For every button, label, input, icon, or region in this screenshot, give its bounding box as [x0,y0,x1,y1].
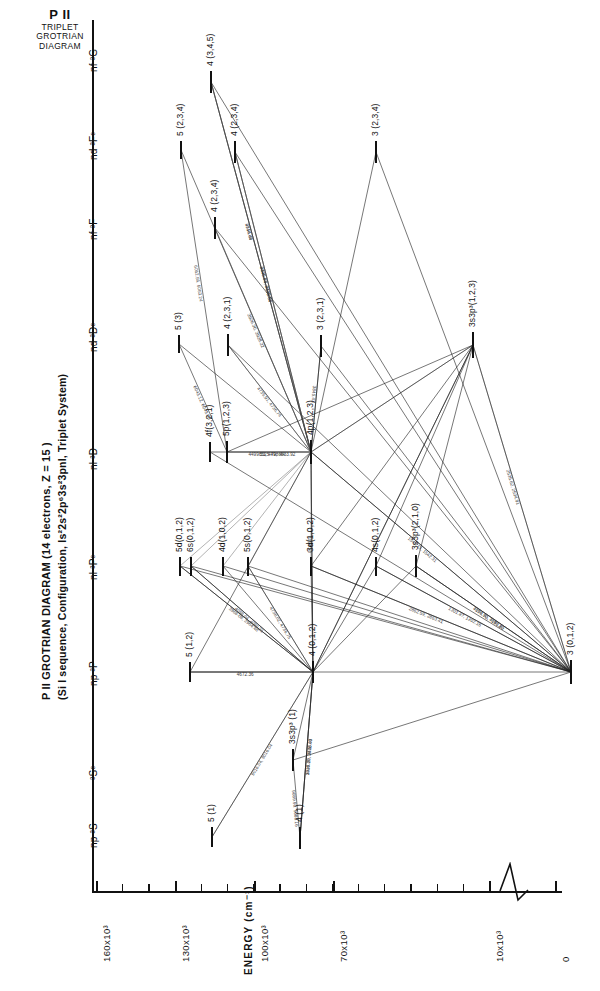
transition-line [376,152,571,672]
energy-level-L20[interactable] [189,662,191,682]
energy-level-label-L21: 4 (0,1,2) [307,623,317,656]
axis-tick-major [555,881,557,892]
energy-level-label-L14: 6s(0,1,2) [185,517,195,551]
energy-level-L21[interactable] [312,661,314,683]
axis-tick [463,884,464,892]
energy-level-label-L5: 4 (2,3,4) [209,179,219,212]
energy-level-L15[interactable] [222,557,224,576]
energy-level-label-L12: 4p(1,2,3) [305,400,315,435]
column-header-np-3P: np ³P [88,661,99,686]
energy-level-label-L11: 5p(1,2,3) [221,401,231,436]
transition-line [311,345,473,452]
axis-tick [227,884,228,892]
energy-level-L5[interactable] [214,217,216,239]
energy-level-L9[interactable] [472,332,474,358]
energy-level-label-L13: 5d(0,1,2) [174,517,184,552]
axis-tick [122,884,123,892]
energy-level-label-L9: 3s3p³(1,2,3) [467,280,477,327]
energy-level-L3[interactable] [234,141,236,163]
column-header-nd-3Fo: nd ³Fᵒ [88,132,99,160]
wavelength-label: 4672.36 [237,672,254,677]
axis-tick-major [254,881,256,892]
axis-tick-label: 130x10³ [180,925,191,962]
transition-line [223,452,311,566]
axis-tick [148,884,149,892]
transition-line [293,672,571,760]
energy-level-label-L22: 3 (0,1,2) [565,622,575,655]
axis-tick [279,884,280,892]
column-header-3So: ³Sᵒ [88,766,99,780]
energy-level-label-L3: 4 (2,3,4) [229,103,239,136]
axis-tick-label: 100x10³ [259,925,270,962]
column-header-nl-3D: nl ³D [88,448,99,470]
grotrian-diagram: P II TRIPLET GROTRIAN DIAGRAM P II GROTR… [0,0,600,991]
axis-tick-label: 0 [560,956,571,962]
energy-level-L12[interactable] [310,440,312,464]
axis-tick-label: 160x10³ [101,925,112,962]
axis-tick [201,884,202,892]
energy-level-label-L18: 4s(0,1,2) [370,517,380,551]
energy-level-L10[interactable] [209,442,211,462]
energy-level-L14[interactable] [190,557,192,576]
axis-tick [384,884,385,892]
energy-level-label-L4: 3 (2,3,4) [370,103,380,136]
energy-level-label-L7: 4 (2,3,1) [222,296,232,329]
energy-level-label-L20: 5 (1,2) [184,632,194,657]
axis-tick-major [175,881,177,892]
column-header-nf-3F: nf ³F [88,218,99,240]
energy-level-L11[interactable] [226,441,228,463]
energy-level-label-L15: 4d(1,0,2) [217,517,227,552]
energy-level-L25[interactable] [299,827,301,849]
transition-line [313,566,376,672]
axis-tick-major [489,881,491,892]
energy-level-L18[interactable] [375,557,377,576]
energy-level-L17[interactable] [310,557,312,576]
energy-level-L13[interactable] [179,557,181,576]
energy-level-label-L24: 5 (1) [206,804,216,822]
column-header-nd-3Do: nd ³Dᵒ [88,323,99,352]
axis-tick-label: 70x10³ [338,931,349,962]
energy-level-L7[interactable] [227,334,229,356]
energy-level-L6[interactable] [178,335,180,353]
axis-tick [358,884,359,892]
axis-tick-major [333,881,335,892]
energy-level-L8[interactable] [320,335,322,357]
transition-line [223,566,313,672]
transition-line [248,566,571,672]
transition-line [311,452,571,672]
energy-level-label-L8: 3 (2,3,1) [315,297,325,330]
energy-level-L16[interactable] [247,557,249,576]
wavelength-label: 6024.18 [307,536,312,553]
axis-tick [437,884,438,892]
energy-level-L22[interactable] [570,660,572,684]
axis-tick [410,884,411,892]
transition-line [313,566,416,672]
column-header-np-3S: np ³S [88,823,99,848]
energy-level-label-L1: 4 (3,4,5) [205,33,215,66]
axis-tick-label: 10x10³ [494,931,505,962]
energy-level-label-L23: 3s3p³ (1) [287,709,297,744]
wavelength-label: 6525.79, 6533.92 [259,452,296,457]
transition-line [235,152,571,672]
energy-level-L2[interactable] [180,141,182,159]
energy-level-L4[interactable] [375,141,377,163]
axis-tick-major [96,881,98,892]
column-header-nl-3Po: nl ³Pᵒ [88,554,99,580]
transition-line [473,345,571,672]
axis-tick [306,884,307,892]
column-header-nf-3G: nf ³G [88,49,99,72]
energy-level-L24[interactable] [211,827,213,847]
energy-level-label-L2: 5 (2,3,4) [175,103,185,136]
energy-level-L23[interactable] [292,749,294,771]
transition-line [313,345,473,672]
energy-level-label-L16: 5s(0,1,2) [242,517,252,551]
energy-level-L19[interactable] [415,555,417,577]
energy-level-L1[interactable] [210,71,212,93]
energy-level-label-L6: 5 (3) [173,312,183,330]
transition-line [211,82,571,672]
transition-line [210,452,571,672]
